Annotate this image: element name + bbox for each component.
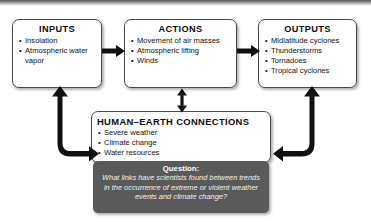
diagram-canvas: INPUTS Insolation Atmospheric water vapo… — [0, 0, 371, 222]
human-earth-list: Severe weather Climate change Water reso… — [92, 128, 270, 158]
inputs-box: INPUTS Insolation Atmospheric water vapo… — [12, 19, 102, 88]
question-label: Question: — [93, 164, 269, 174]
question-box: Question: What links have scientists fou… — [93, 161, 269, 213]
human-earth-connections-box: HUMAN–EARTH CONNECTIONS Severe weather C… — [91, 111, 271, 163]
actions-list: Movement of air masses Atmospheric lifti… — [125, 36, 236, 66]
actions-box: ACTIONS Movement of air masses Atmospher… — [124, 19, 237, 88]
list-item: Severe weather — [98, 128, 267, 138]
list-item: Atmospheric water vapor — [19, 46, 98, 65]
top-gradient-band — [0, 0, 371, 6]
outputs-list: Midlatitude cyclones Thunderstorms Torna… — [259, 36, 356, 76]
inputs-title: INPUTS — [13, 24, 101, 35]
list-item: Climate change — [98, 138, 267, 148]
actions-title: ACTIONS — [125, 24, 236, 35]
human-earth-title: HUMAN–EARTH CONNECTIONS — [92, 116, 270, 127]
list-item: Tropical cyclones — [265, 66, 353, 76]
list-item: Tornadoes — [265, 56, 353, 66]
list-item: Thunderstorms — [265, 46, 353, 56]
list-item: Movement of air masses — [131, 36, 233, 46]
list-item: Insolation — [19, 36, 98, 46]
arrow-actions-human-earth-double-icon — [175, 88, 189, 113]
list-item: Atmospheric lifting — [131, 46, 233, 56]
list-item: Winds — [131, 56, 233, 66]
list-item: Midlatitude cyclones — [265, 36, 353, 46]
outputs-box: OUTPUTS Midlatitude cyclones Thunderstor… — [258, 19, 357, 88]
arrow-right-feedback-loop-icon — [268, 85, 328, 165]
outputs-title: OUTPUTS — [259, 24, 356, 35]
list-item: Water resources — [98, 148, 267, 158]
question-text: What links have scientists found between… — [93, 173, 269, 202]
inputs-list: Insolation Atmospheric water vapor — [13, 36, 101, 65]
